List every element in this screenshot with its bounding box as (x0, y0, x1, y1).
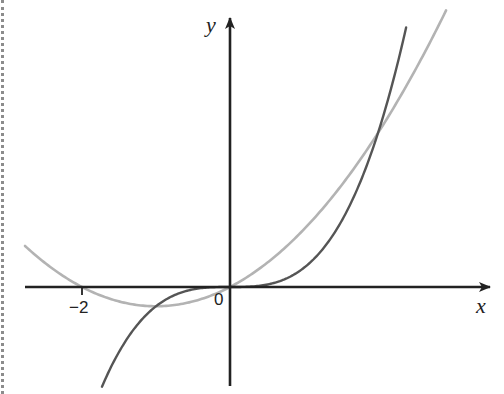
y-axis-label: y (206, 14, 216, 36)
cubic-curve (102, 27, 406, 386)
quadratic-curve (25, 10, 446, 306)
x-axis-label: x (476, 295, 486, 317)
series-layer (25, 10, 446, 386)
x-tick-label-neg2: −2 (69, 299, 88, 316)
origin-label: 0 (214, 291, 223, 308)
plot-area (0, 0, 504, 394)
